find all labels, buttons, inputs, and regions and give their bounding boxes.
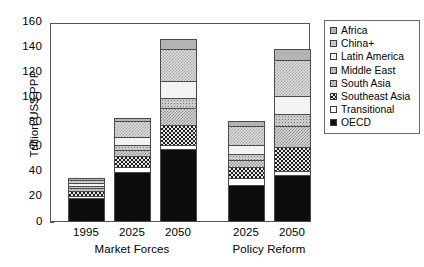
legend-item-oecd[interactable]: OECD — [328, 116, 416, 129]
chart-legend: AfricaChina+Latin AmericaMiddle EastSout… — [324, 20, 420, 134]
bar-segment-transitional — [274, 171, 311, 175]
legend-swatch-middle-east-icon — [330, 67, 337, 74]
bar-segment-china — [274, 60, 311, 96]
legend-item-label: South Asia — [341, 78, 391, 89]
x-axis-tick-label: 2025 — [221, 226, 271, 238]
bar-segment-africa — [114, 118, 151, 122]
y-axis-tick-label: 40 — [29, 164, 42, 176]
bar-segment-oecd — [228, 185, 265, 222]
legend-item-middle-east[interactable]: Middle East — [328, 64, 416, 77]
y-axis-tick-label: 80 — [29, 115, 42, 127]
x-axis-group-label-policy-reform: Policy Reform — [209, 243, 329, 255]
bar-segment-china — [228, 126, 265, 145]
legend-swatch-southeast-asia-icon — [330, 93, 337, 100]
bar-segment-latin-america — [160, 81, 197, 97]
y-tick-label-zero: 0 — [36, 215, 42, 227]
legend-item-south-asia[interactable]: South Asia — [328, 77, 416, 90]
legend-item-transitional[interactable]: Transitional — [328, 103, 416, 116]
bar-segment-middle-east — [114, 145, 151, 150]
bar-segment-transitional — [114, 167, 151, 172]
legend-item-label: China+ — [341, 38, 374, 49]
legend-item-latin-america[interactable]: Latin America — [328, 50, 416, 63]
x-axis-tick-label: 2025 — [107, 226, 157, 238]
y-axis-tick-mark — [50, 222, 54, 223]
bar-segment-africa — [228, 121, 265, 126]
bar-segment-southeast-asia — [160, 125, 197, 145]
bar-segment-oecd — [68, 198, 105, 222]
x-axis-tick-label: 2050 — [153, 226, 203, 238]
y-axis-tick-label: 160 — [22, 15, 42, 27]
legend-item-label: Middle East — [341, 65, 395, 76]
legend-item-africa[interactable]: Africa — [328, 24, 416, 37]
bar-2025-policy-reform — [228, 121, 265, 222]
bars-layer — [50, 23, 310, 222]
bar-segment-south-asia — [114, 150, 151, 156]
x-axis-tick-label: 1995 — [61, 226, 111, 238]
bar-segment-middle-east — [274, 114, 311, 126]
bar-segment-africa — [68, 178, 105, 179]
bar-2050-market-forces — [160, 40, 197, 222]
x-axis-group-label-market-forces: Market Forces — [72, 243, 192, 255]
bar-2025-market-forces — [114, 118, 151, 222]
bar-segment-southeast-asia — [68, 191, 105, 196]
bar-segment-africa — [160, 39, 197, 49]
bar-segment-latin-america — [68, 183, 105, 185]
bar-2050-policy-reform — [274, 49, 311, 222]
legend-item-label: OECD — [341, 117, 371, 128]
bar-segment-south-asia — [228, 160, 265, 167]
bar-segment-middle-east — [160, 98, 197, 108]
legend-swatch-latin-america-icon — [330, 53, 337, 60]
y-axis-tick-label: 20 — [29, 189, 42, 201]
stacked-bar-chart-figure: Trillion US$ PPP 20406080100120140160 0 … — [0, 0, 424, 267]
bar-segment-oecd — [114, 172, 151, 222]
y-axis-tick-label: 60 — [29, 139, 42, 151]
bar-segment-transitional — [228, 178, 265, 184]
bar-segment-middle-east — [68, 186, 105, 188]
bar-segment-latin-america — [274, 96, 311, 113]
bar-segment-south-asia — [68, 188, 105, 190]
legend-item-china-plus[interactable]: China+ — [328, 37, 416, 50]
bar-segment-china — [114, 121, 151, 137]
bar-segment-oecd — [160, 149, 197, 222]
bar-segment-south-asia — [274, 126, 311, 147]
bar-segment-southeast-asia — [274, 147, 311, 171]
x-axis-label-group: 19952025205020252050Market ForcesPolicy … — [50, 224, 310, 264]
legend-swatch-south-asia-icon — [330, 80, 337, 87]
bar-segment-china — [160, 49, 197, 81]
legend-swatch-china-plus-icon — [330, 40, 337, 47]
bar-segment-latin-america — [114, 137, 151, 144]
bar-1995-market-forces — [68, 178, 105, 222]
bar-segment-africa — [274, 49, 311, 60]
bar-segment-china — [68, 180, 105, 184]
legend-item-label: Latin America — [341, 51, 404, 62]
y-axis-tick-label: 100 — [22, 90, 42, 102]
bar-segment-oecd — [274, 175, 311, 222]
legend-swatch-africa-icon — [330, 27, 337, 34]
legend-item-label: Transitional — [341, 104, 394, 115]
bar-segment-southeast-asia — [114, 156, 151, 167]
bar-segment-south-asia — [160, 108, 197, 125]
bar-segment-latin-america — [228, 145, 265, 154]
y-axis-tick-label: 140 — [22, 40, 42, 52]
bar-segment-transitional — [68, 196, 105, 198]
legend-item-label: Southeast Asia — [341, 91, 410, 102]
legend-swatch-oecd-icon — [330, 119, 337, 126]
legend-item-label: Africa — [341, 25, 368, 36]
legend-item-southeast-asia[interactable]: Southeast Asia — [328, 90, 416, 103]
x-axis-tick-label: 2050 — [267, 226, 317, 238]
legend-swatch-transitional-icon — [330, 106, 337, 113]
bar-segment-middle-east — [228, 154, 265, 160]
bar-segment-southeast-asia — [228, 167, 265, 178]
bar-segment-transitional — [160, 145, 197, 149]
y-axis-tick-label: 120 — [22, 65, 42, 77]
